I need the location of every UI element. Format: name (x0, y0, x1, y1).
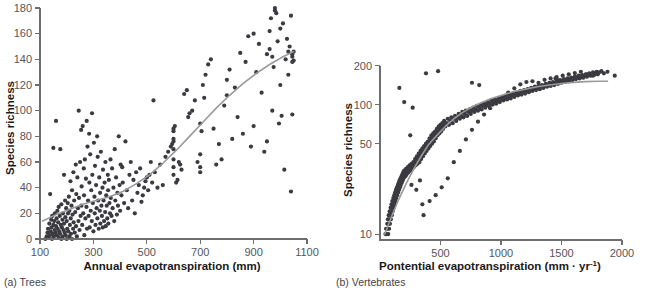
data-point (518, 82, 522, 86)
data-point (139, 200, 143, 204)
data-point (149, 160, 153, 164)
data-point (106, 188, 110, 192)
trees-ytick-label: 0 (26, 233, 32, 245)
data-point (69, 204, 73, 208)
data-point (48, 192, 52, 196)
data-point (117, 134, 121, 138)
data-point (88, 225, 92, 229)
data-point (402, 100, 406, 104)
data-point (178, 162, 182, 166)
data-point (92, 195, 96, 199)
trees-ytick-label: 100 (14, 104, 32, 116)
data-point (249, 145, 253, 149)
data-point (97, 227, 101, 231)
data-point (98, 222, 102, 226)
data-point (90, 219, 94, 223)
data-point (79, 128, 83, 132)
data-point (130, 198, 134, 202)
data-point (74, 192, 78, 196)
data-point (138, 166, 142, 170)
data-point (277, 121, 281, 125)
data-point (106, 173, 110, 177)
data-point (281, 21, 285, 25)
data-point (69, 232, 73, 236)
data-point (464, 137, 468, 141)
data-point (123, 139, 127, 143)
data-point (482, 112, 486, 116)
data-point (75, 234, 79, 238)
data-point (286, 73, 290, 77)
x-axis-title-vertebrates: Pontential evapotranspiration (mm · yr-1… (379, 259, 601, 272)
data-point (414, 188, 418, 192)
data-point (190, 109, 194, 113)
data-point (225, 78, 229, 82)
data-point (98, 209, 102, 213)
data-point (573, 71, 577, 75)
data-point (100, 214, 104, 218)
data-point (477, 83, 481, 87)
data-point (47, 222, 51, 226)
data-point (70, 188, 74, 192)
data-point (84, 177, 88, 181)
data-point (278, 26, 282, 30)
data-point (452, 160, 456, 164)
data-point (206, 62, 210, 66)
data-point (470, 128, 474, 132)
data-point (386, 232, 390, 236)
data-point (100, 186, 104, 190)
data-point (265, 52, 269, 56)
trees-xtick-label: 300 (84, 246, 102, 258)
data-point (112, 219, 116, 223)
data-point (290, 112, 294, 116)
data-point (171, 173, 175, 177)
data-point (68, 179, 72, 183)
data-point (67, 195, 71, 199)
data-point (280, 114, 284, 118)
data-point (171, 139, 175, 143)
data-point (171, 165, 175, 169)
data-point (274, 11, 278, 15)
data-point (282, 168, 286, 172)
data-point (424, 71, 428, 75)
data-point (243, 60, 247, 64)
vertebrates-ytick-label: 50 (360, 138, 372, 150)
data-point (420, 202, 424, 206)
data-point (171, 157, 175, 161)
data-point (106, 222, 110, 226)
data-point (111, 206, 115, 210)
trees-xtick-label: 900 (244, 246, 262, 258)
trees-xtick-label: 100 (31, 246, 49, 258)
data-point (98, 191, 102, 195)
data-point (227, 68, 231, 72)
data-point (161, 183, 165, 187)
data-point (465, 114, 469, 118)
data-point (276, 39, 280, 43)
data-point (198, 152, 202, 156)
data-point (268, 47, 272, 51)
data-point (198, 170, 202, 174)
x-axis-title-trees: Annual evapotranspiration (mm) (84, 260, 261, 272)
data-point (288, 44, 292, 48)
data-point (555, 75, 559, 79)
plot-area-trees (43, 6, 296, 241)
data-point (265, 139, 269, 143)
data-point (605, 70, 609, 74)
data-point (146, 188, 150, 192)
data-point (108, 157, 112, 161)
data-point (71, 170, 75, 174)
data-point (285, 37, 289, 41)
data-point (82, 233, 86, 237)
data-point (93, 164, 97, 168)
data-point (81, 124, 85, 128)
data-point (119, 193, 123, 197)
data-point (94, 183, 98, 187)
data-point (421, 213, 425, 217)
data-point (241, 132, 245, 136)
data-point (186, 115, 190, 119)
trees-xtick-label: 500 (138, 246, 156, 258)
data-point (72, 220, 76, 224)
data-point (262, 150, 266, 154)
data-point (87, 180, 91, 184)
data-point (66, 201, 70, 205)
vertebrates-xtick-label: 1500 (549, 247, 573, 259)
